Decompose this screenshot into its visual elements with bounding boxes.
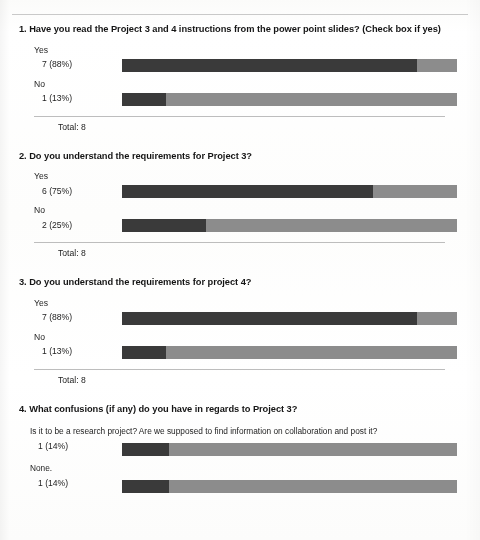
answer-row: None. 1 (14%) (30, 464, 468, 501)
question-block-2: 2. Do you understand the requirements fo… (0, 151, 480, 259)
answer-list: Yes 6 (75%) No 2 (25%) (12, 172, 468, 240)
question-block-4: 4. What confusions (if any) do you have … (0, 404, 480, 502)
answer-bar-track (122, 185, 457, 198)
answer-bar-fill (122, 219, 206, 232)
answer-bar-fill (122, 480, 169, 493)
answer-bar-track (122, 219, 457, 232)
answer-row: Yes 6 (75%) (34, 172, 468, 206)
answer-bar-fill (122, 312, 417, 325)
answer-bar-track (122, 346, 457, 359)
answer-list: Yes 7 (88%) No 1 (13%) (12, 299, 468, 367)
scanned-survey-page: 1. Have you read the Project 3 and 4 ins… (0, 0, 480, 540)
question-title: 2. Do you understand the requirements fo… (12, 151, 468, 163)
answer-list: Yes 7 (88%) No 1 (13%) (12, 46, 468, 114)
answer-bar-fill (122, 93, 166, 106)
total-section: Total: 8 (12, 242, 468, 258)
answer-label: Is it to be a research project? Are we s… (30, 427, 468, 436)
answer-row: No 2 (25%) (34, 206, 468, 240)
question-title: 3. Do you understand the requirements fo… (12, 277, 468, 289)
answer-row: No 1 (13%) (34, 80, 468, 114)
answer-bar-track (122, 93, 457, 106)
answer-bar-track (122, 312, 457, 325)
answer-bar-fill (122, 346, 166, 359)
total-section: Total: 8 (12, 369, 468, 385)
answer-label: None. (30, 464, 468, 473)
answer-label: Yes (34, 46, 468, 55)
answer-bar-track (122, 480, 457, 493)
question-title: 1. Have you read the Project 3 and 4 ins… (12, 24, 468, 36)
answer-label: No (34, 333, 468, 342)
answer-row: Yes 7 (88%) (34, 299, 468, 333)
answer-row: Yes 7 (88%) (34, 46, 468, 80)
question-block-1: 1. Have you read the Project 3 and 4 ins… (0, 24, 480, 132)
answer-row: Is it to be a research project? Are we s… (30, 427, 468, 464)
total-label: Total: 8 (34, 243, 468, 258)
answer-bar-fill (122, 185, 373, 198)
answer-list: Is it to be a research project? Are we s… (12, 427, 468, 501)
answer-bar-track (122, 59, 457, 72)
total-label: Total: 8 (34, 370, 468, 385)
answer-label: Yes (34, 299, 468, 308)
question-title: 4. What confusions (if any) do you have … (12, 404, 468, 416)
survey-content: 1. Have you read the Project 3 and 4 ins… (0, 0, 480, 501)
question-block-3: 3. Do you understand the requirements fo… (0, 277, 480, 385)
answer-label: No (34, 206, 468, 215)
answer-bar-track (122, 443, 457, 456)
answer-label: Yes (34, 172, 468, 181)
total-label: Total: 8 (34, 117, 468, 132)
answer-bar-fill (122, 443, 169, 456)
answer-bar-fill (122, 59, 417, 72)
answer-label: No (34, 80, 468, 89)
total-section: Total: 8 (12, 116, 468, 132)
answer-row: No 1 (13%) (34, 333, 468, 367)
